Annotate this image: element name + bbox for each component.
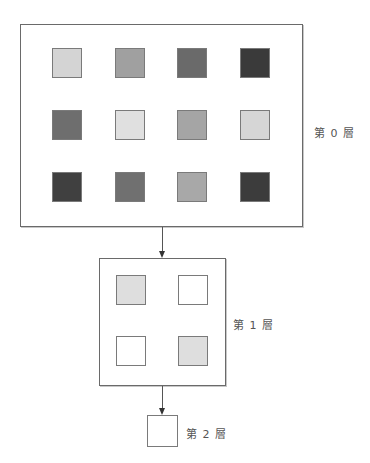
arrow-layer0-to-layer1-line <box>162 227 163 252</box>
layer-1-cell-r1-c0 <box>116 336 146 366</box>
layer-2-label: 第 2 層 <box>186 425 227 441</box>
layer-0-label: 第 0 層 <box>314 124 355 140</box>
layer-0-cell-r0-c3 <box>240 48 270 78</box>
arrow-down-icon <box>159 251 165 258</box>
layer-0-cell-r2-c2 <box>177 172 207 202</box>
layer-2-box <box>147 415 178 447</box>
arrow-layer1-to-layer2-line <box>162 386 163 409</box>
layer-0-cell-r0-c0 <box>52 48 82 78</box>
layer-1-label: 第 1 層 <box>233 316 274 332</box>
layer-0-cell-r2-c3 <box>240 172 270 202</box>
layer-0-cell-r1-c0 <box>52 110 82 140</box>
layer-0-cell-r1-c2 <box>177 110 207 140</box>
layer-0-cell-r0-c1 <box>115 48 145 78</box>
arrow-down-icon <box>159 408 165 415</box>
layer-1-cell-r1-c1 <box>178 336 208 366</box>
layer-0-cell-r2-c0 <box>52 172 82 202</box>
layer-1-box <box>99 258 226 386</box>
layer-1-cell-r0-c1 <box>178 275 208 305</box>
layer-0-cell-r2-c1 <box>115 172 145 202</box>
layer-0-box <box>20 24 303 227</box>
layer-0-cell-r1-c3 <box>240 110 270 140</box>
layer-0-cell-r0-c2 <box>177 48 207 78</box>
layer-1-cell-r0-c0 <box>116 275 146 305</box>
layer-0-cell-r1-c1 <box>115 110 145 140</box>
